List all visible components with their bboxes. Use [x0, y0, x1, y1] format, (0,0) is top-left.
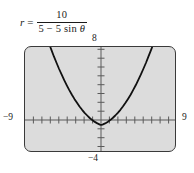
denominator-sine-function: sin	[64, 23, 77, 34]
denominator-term-a: 5	[39, 23, 44, 34]
screen-frame	[24, 46, 176, 152]
x-axis-min-label: −9	[3, 112, 13, 122]
graph-canvas	[25, 47, 176, 152]
denominator-minus-sign: −	[47, 23, 53, 34]
fraction-numerator: 10	[52, 10, 71, 22]
y-axis-min-label: −4	[88, 153, 98, 163]
x-axis-max-label: 9	[182, 112, 187, 122]
y-axis-max-label: 8	[92, 33, 97, 43]
denominator-theta-symbol: θ	[80, 23, 85, 34]
equation-variable: r	[20, 17, 24, 28]
equation-equals-sign: =	[27, 17, 33, 28]
fraction-denominator: 5 − 5 sin θ	[37, 23, 88, 35]
figure-root: r = 10 5 − 5 sin θ	[0, 0, 194, 173]
denominator-term-b: 5	[56, 23, 61, 34]
polar-equation: r = 10 5 − 5 sin θ	[20, 10, 87, 34]
graphing-calculator-screen	[24, 46, 176, 152]
equation-fraction: 10 5 − 5 sin θ	[37, 10, 88, 34]
